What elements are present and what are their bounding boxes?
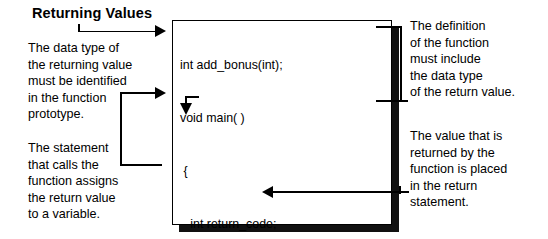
code-line: int add_bonus(int);: [180, 57, 392, 75]
connector-def-riser: [400, 26, 402, 102]
connector-return-line: [272, 191, 400, 193]
connector-flow-down-top: [185, 96, 199, 98]
code-line: void main( ): [180, 110, 392, 128]
annotation-return-statement: The value that is returned by the functi…: [410, 128, 546, 211]
page-title: Returning Values: [32, 5, 152, 21]
connector-call-riser: [120, 93, 122, 165]
annotation-function-definition: The definition of the function must incl…: [410, 18, 544, 101]
connector-prototype-line: [78, 31, 156, 33]
diagram-canvas: Returning Values int add_bonus(int); voi…: [0, 0, 548, 239]
connector-return-lead: [399, 191, 409, 193]
code-line: {: [180, 163, 392, 181]
connector-def-lead: [400, 100, 408, 102]
arrow-to-prototype-icon: [155, 25, 166, 37]
arrow-to-call-statement-icon: [155, 87, 166, 99]
annotation-prototype-data-type: The data type of the returning value mus…: [28, 40, 168, 123]
arrow-to-return-statement-icon: [262, 186, 273, 198]
code-listing: int add_bonus(int); void main( ) { int r…: [180, 22, 392, 239]
connector-call-tail: [120, 164, 162, 166]
connector-def-bottom: [376, 100, 402, 102]
connector-def-top: [376, 26, 402, 28]
connector-return-riser: [399, 186, 401, 194]
code-line: int return_code;: [180, 216, 392, 234]
annotation-calling-statement: The statement that calls the function as…: [28, 140, 170, 223]
connector-call-line: [120, 92, 156, 94]
